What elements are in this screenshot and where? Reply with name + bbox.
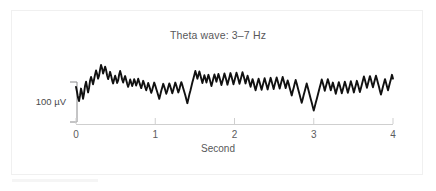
y-scalebar-label: 100 µV	[14, 96, 66, 107]
eeg-waveform-trace	[76, 65, 393, 111]
x-axis-tick-label: 2	[223, 129, 247, 140]
x-axis-tick-label: 0	[64, 129, 88, 140]
x-axis-tick-label: 1	[143, 129, 167, 140]
x-axis-label: Second	[0, 143, 436, 154]
figure-screenshot: Theta wave: 3–7 Hz 01234 Second 100 µV	[0, 0, 436, 191]
x-axis-tick-label: 3	[302, 129, 326, 140]
x-axis-ticks	[76, 118, 393, 124]
x-axis-tick-label: 4	[381, 129, 405, 140]
